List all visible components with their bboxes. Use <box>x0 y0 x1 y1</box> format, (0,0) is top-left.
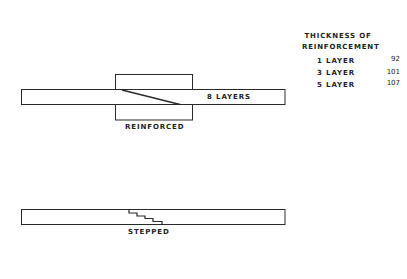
legend-row-label: 3 LAYER <box>317 70 355 77</box>
legend-title: THICKNESS OF REINFORCEMENT <box>302 31 374 52</box>
stepped-joint-line <box>129 210 162 225</box>
top-reinforcement-plate <box>116 75 193 90</box>
legend-row-value: 107 <box>380 80 400 87</box>
stepped-caption: STEPPED <box>128 229 170 236</box>
legend-title-line2: REINFORCEMENT <box>302 42 374 53</box>
reinforced-caption: REINFORCED <box>125 124 185 131</box>
bottom-reinforcement-plate <box>116 105 193 121</box>
legend-title-line1: THICKNESS OF <box>302 31 374 42</box>
legend-row-value: 101 <box>380 69 400 76</box>
stepped-laminate-bar <box>22 210 286 225</box>
bar-layers-label: 8 LAYERS <box>207 94 251 101</box>
legend-row-value: 92 <box>380 56 400 63</box>
stepped-joint <box>22 210 286 225</box>
legend-row-label: 5 LAYER <box>317 82 355 89</box>
legend-row-label: 1 LAYER <box>317 58 355 65</box>
